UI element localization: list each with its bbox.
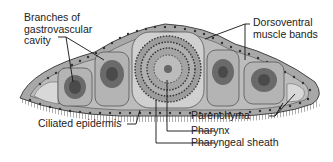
- label-branches-line3: cavity: [24, 35, 92, 47]
- gastrovascular-branch-right-outer: [244, 62, 284, 104]
- pharynx: [135, 36, 201, 102]
- label-branches-line1: Branches of: [24, 12, 92, 24]
- leader-dorsoventral: [205, 24, 250, 39]
- label-ciliated-epidermis: Ciliated epidermis: [38, 118, 121, 130]
- label-pharyngeal-sheath: Pharyngeal sheath: [191, 137, 279, 149]
- gastrovascular-branch-left-inner: [95, 52, 129, 106]
- gastrovascular-branch-right-inner: [207, 50, 239, 106]
- label-pharynx: Pharynx: [191, 125, 230, 137]
- gastrovascular-branch-left-outer: [58, 68, 92, 106]
- label-dorsoventral-line2: muscle bands: [253, 29, 318, 41]
- label-dorsoventral-muscle-bands: Dorsoventral muscle bands: [253, 17, 318, 40]
- label-branches-gastrovascular: Branches of gastrovascular cavity: [24, 12, 92, 47]
- label-dorsoventral-line1: Dorsoventral: [253, 17, 318, 29]
- label-parenchyma: Parenchyma: [191, 110, 250, 122]
